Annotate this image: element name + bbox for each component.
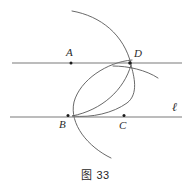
point-B-dot — [67, 114, 70, 117]
point-A-dot — [70, 62, 73, 65]
geometry-canvas — [0, 0, 191, 190]
line-label-ell: ℓ — [172, 101, 177, 113]
point-D-dot — [128, 61, 132, 65]
point-label-a: A — [66, 47, 73, 58]
figure-caption: 图 33 — [0, 166, 191, 182]
point-label-d: D — [134, 48, 142, 59]
arc-circle-BD-icon — [73, 60, 132, 158]
arc-circle-CD-icon — [72, 65, 135, 116]
arc-through-D-right-icon — [113, 66, 158, 78]
geometry-figure: A B C D ℓ 图 33 — [0, 0, 191, 190]
point-C-dot — [123, 114, 126, 117]
point-label-b: B — [59, 119, 66, 130]
point-label-c: C — [119, 120, 126, 131]
arc-upper-left-icon — [72, 11, 131, 64]
